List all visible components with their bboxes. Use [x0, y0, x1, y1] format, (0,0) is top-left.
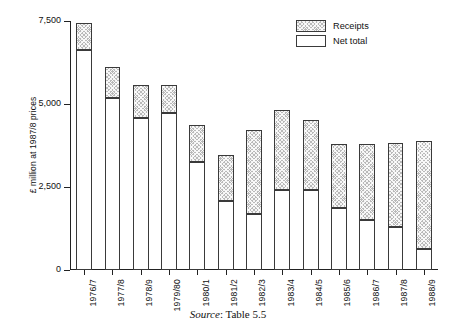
- bar-stack[interactable]: [218, 21, 234, 270]
- figure-chart-container: £ million at 1987/8 prices 02,5005,0007,…: [0, 0, 456, 332]
- x-axis-tick: [311, 270, 312, 275]
- bar-segment-receipts[interactable]: [105, 67, 121, 98]
- bar-segment-net-total[interactable]: [416, 249, 432, 270]
- y-axis-tick: 7,500: [64, 21, 70, 22]
- bar-stack[interactable]: [246, 21, 262, 270]
- y-axis-line: [70, 21, 71, 270]
- bar-segment-net-total[interactable]: [274, 190, 290, 270]
- bar-stack[interactable]: [331, 21, 347, 270]
- x-axis-tick-label: 1983/4: [286, 279, 296, 307]
- bar-segment-receipts[interactable]: [303, 120, 319, 190]
- x-axis-tick: [424, 270, 425, 275]
- bar-segment-net-total[interactable]: [331, 208, 347, 270]
- bar-segment-net-total[interactable]: [133, 118, 149, 270]
- x-axis-tick: [84, 270, 85, 275]
- legend-swatch-net-total-icon: [296, 35, 326, 47]
- y-axis-title: £ million at 1987/8 prices: [28, 35, 38, 255]
- legend-item-receipts: Receipts: [296, 20, 369, 32]
- legend: Receipts Net total: [296, 20, 369, 50]
- bar-segment-net-total[interactable]: [359, 220, 375, 270]
- bar-stack[interactable]: [189, 21, 205, 270]
- bar-segment-net-total[interactable]: [189, 162, 205, 270]
- bar-stack[interactable]: [105, 21, 121, 270]
- legend-swatch-receipts-icon: [296, 20, 326, 32]
- y-axis-tick: 2,500: [64, 187, 70, 188]
- bar-segment-net-total[interactable]: [218, 201, 234, 270]
- x-axis-tick-label: 1987/8: [399, 279, 409, 307]
- x-axis-tick: [282, 270, 283, 275]
- x-axis-tick-label: 1982/3: [257, 279, 267, 307]
- x-axis-tick: [226, 270, 227, 275]
- y-axis-tick: 5,000: [64, 104, 70, 105]
- source-caption: Source: Table 5.5: [0, 308, 456, 320]
- x-axis-tick-label: 1977/8: [116, 279, 126, 307]
- bar-stack[interactable]: [274, 21, 290, 270]
- plot-area: 02,5005,0007,5001976/71977/81978/91979/8…: [70, 21, 438, 270]
- bar-stack[interactable]: [388, 21, 404, 270]
- x-axis-tick-label: 1976/7: [88, 279, 98, 307]
- legend-label-receipts: Receipts: [333, 21, 369, 31]
- x-axis-tick-label: 1986/7: [371, 279, 381, 307]
- x-axis-tick-label: 1979/80: [172, 279, 182, 311]
- x-axis-tick-label: 1981/2: [229, 279, 239, 307]
- bar-segment-receipts[interactable]: [246, 130, 262, 213]
- bar-segment-receipts[interactable]: [133, 85, 149, 118]
- bar-segment-net-total[interactable]: [105, 98, 121, 270]
- bar-segment-net-total[interactable]: [76, 50, 92, 270]
- bar-segment-receipts[interactable]: [189, 125, 205, 162]
- bar-segment-net-total[interactable]: [388, 227, 404, 270]
- x-axis-tick: [112, 270, 113, 275]
- y-axis-tick-label: 2,500: [38, 181, 61, 191]
- bar-stack[interactable]: [303, 21, 319, 270]
- bar-stack[interactable]: [133, 21, 149, 270]
- bar-segment-receipts[interactable]: [331, 144, 347, 207]
- bar-stack[interactable]: [359, 21, 375, 270]
- x-axis-tick: [141, 270, 142, 275]
- bar-stack[interactable]: [416, 21, 432, 270]
- bar-segment-net-total[interactable]: [161, 113, 177, 270]
- x-axis-tick: [339, 270, 340, 275]
- bar-segment-receipts[interactable]: [359, 144, 375, 220]
- x-axis-tick-label: 1988/9: [427, 279, 437, 307]
- bar-segment-receipts[interactable]: [274, 110, 290, 190]
- x-axis-tick-label: 1985/6: [342, 279, 352, 307]
- x-axis-tick: [396, 270, 397, 275]
- y-axis-tick-label: 7,500: [38, 15, 61, 25]
- x-axis-tick: [197, 270, 198, 275]
- x-axis-tick: [169, 270, 170, 275]
- source-prefix: Source: [190, 308, 220, 320]
- x-axis-tick-label: 1978/9: [144, 279, 154, 307]
- y-axis-tick: 0: [64, 270, 70, 271]
- legend-label-net-total: Net total: [333, 36, 367, 46]
- bar-stack[interactable]: [76, 21, 92, 270]
- bar-segment-receipts[interactable]: [416, 141, 432, 249]
- bar-segment-net-total[interactable]: [246, 214, 262, 270]
- legend-item-net-total: Net total: [296, 35, 369, 47]
- x-axis-tick: [367, 270, 368, 275]
- bar-segment-receipts[interactable]: [161, 85, 177, 113]
- y-axis-tick-label: 0: [56, 264, 61, 274]
- source-reference: Table 5.5: [225, 308, 266, 320]
- x-axis-tick: [254, 270, 255, 275]
- bar-stack[interactable]: [161, 21, 177, 270]
- bar-segment-receipts[interactable]: [388, 143, 404, 226]
- bar-segment-receipts[interactable]: [218, 155, 234, 200]
- bar-segment-receipts[interactable]: [76, 23, 92, 49]
- bar-segment-net-total[interactable]: [303, 190, 319, 270]
- y-axis-tick-label: 5,000: [38, 98, 61, 108]
- x-axis-tick-label: 1984/5: [314, 279, 324, 307]
- x-axis-tick-label: 1980/1: [201, 279, 211, 307]
